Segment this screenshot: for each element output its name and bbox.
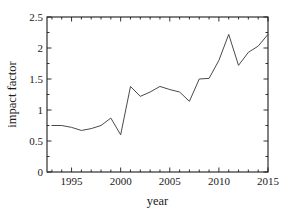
y-tick-label: 0: [38, 166, 44, 178]
x-axis-label: year: [147, 194, 169, 208]
x-axis-tick-labels: 19952000200520102015: [61, 175, 280, 187]
plot-frame: [47, 17, 268, 172]
y-tick-label: 1: [38, 104, 44, 116]
y-axis-ticks: [47, 17, 268, 172]
y-tick-label: 1.5: [29, 73, 43, 85]
x-tick-label: 2005: [159, 175, 182, 187]
y-axis-tick-labels: 00.511.522.5: [29, 11, 43, 178]
x-tick-label: 2000: [110, 175, 133, 187]
x-tick-label: 2015: [257, 175, 280, 187]
data-series-line: [52, 34, 268, 134]
line-chart: 19952000200520102015 00.511.522.5 year i…: [0, 0, 290, 214]
y-axis-label: impact factor: [5, 61, 19, 128]
x-tick-label: 1995: [61, 175, 84, 187]
y-tick-label: 2: [38, 42, 44, 54]
y-tick-label: 0.5: [29, 135, 43, 147]
y-tick-label: 2.5: [29, 11, 43, 23]
chart-figure: 19952000200520102015 00.511.522.5 year i…: [0, 0, 290, 214]
x-tick-label: 2010: [208, 175, 231, 187]
x-axis-ticks: [52, 17, 268, 172]
